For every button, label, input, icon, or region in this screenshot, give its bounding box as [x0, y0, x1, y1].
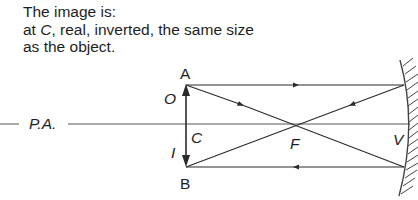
label-point-a: A	[180, 66, 190, 82]
label-object: O	[164, 91, 176, 107]
image-arrow	[182, 124, 190, 167]
label-centre-of-curvature: C	[191, 130, 202, 146]
label-focus: F	[290, 136, 299, 152]
concave-mirror	[399, 58, 418, 196]
object-arrow	[182, 84, 190, 124]
label-vertex: V	[393, 132, 403, 148]
ray-diagram	[0, 0, 418, 200]
label-point-b: B	[180, 176, 190, 192]
label-image: I	[171, 145, 175, 161]
label-principal-axis: P.A.	[29, 116, 56, 132]
